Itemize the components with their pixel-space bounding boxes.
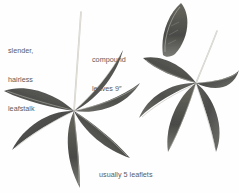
illustration-canvas <box>0 0 239 193</box>
leaf-illustration-figure: slender, hairless leafstalk compound lea… <box>0 0 239 193</box>
